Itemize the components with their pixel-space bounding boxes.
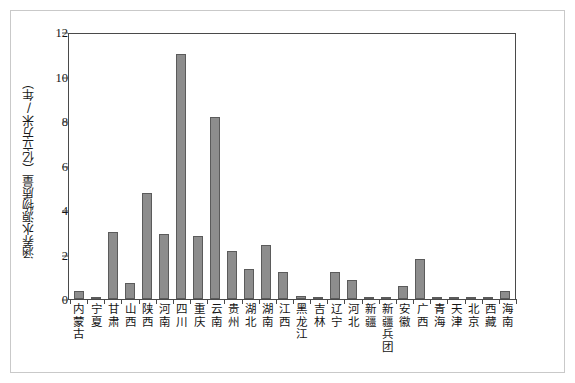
bar — [415, 259, 425, 299]
bar — [449, 297, 459, 299]
bar — [296, 296, 306, 299]
bar-slot — [87, 34, 104, 299]
bar — [108, 232, 118, 299]
x-tick-label: 河北 — [346, 303, 358, 373]
x-axis-labels: 内蒙古宁夏甘肃山西陕西河南四川重庆云南贵州湖北湖南江西黑龙江吉林辽宁河北新疆新疆… — [68, 303, 516, 373]
x-tick-label: 河南 — [158, 303, 170, 373]
x-tick-label: 宁夏 — [89, 303, 101, 373]
bar-slot — [241, 34, 258, 299]
x-label-slot: 新疆 — [361, 303, 378, 373]
bar-slot — [275, 34, 292, 299]
bar-slot — [121, 34, 138, 299]
x-tick-label: 安徽 — [398, 303, 410, 373]
x-label-slot: 甘肃 — [103, 303, 120, 373]
x-label-slot: 海南 — [498, 303, 515, 373]
bar-slot — [224, 34, 241, 299]
bar — [261, 245, 271, 300]
x-label-slot: 广西 — [412, 303, 429, 373]
x-label-slot: 辽宁 — [326, 303, 343, 373]
bar-slot — [172, 34, 189, 299]
y-axis-ticks: 024681012 — [30, 33, 68, 300]
bar-slot — [394, 34, 411, 299]
x-tick-label: 天津 — [449, 303, 461, 373]
chart-figure: 涵养水源物质量（亿立方米/年） 024681012 内蒙古宁夏甘肃山西陕西河南四… — [0, 0, 575, 383]
bar — [398, 286, 408, 299]
bar-series — [69, 34, 515, 299]
x-label-slot: 江西 — [275, 303, 292, 373]
bar — [74, 291, 84, 299]
x-tick-label: 内蒙古 — [72, 303, 84, 373]
bar-slot — [497, 34, 514, 299]
x-tick-label: 海南 — [501, 303, 513, 373]
x-label-slot: 河北 — [344, 303, 361, 373]
bar-slot — [480, 34, 497, 299]
bar — [193, 236, 203, 299]
bar-slot — [463, 34, 480, 299]
bar-slot — [309, 34, 326, 299]
x-label-slot: 安徽 — [395, 303, 412, 373]
bar-slot — [207, 34, 224, 299]
x-tick-label: 青海 — [432, 303, 444, 373]
x-tick-label: 山西 — [123, 303, 135, 373]
x-label-slot: 吉林 — [309, 303, 326, 373]
bar-slot — [446, 34, 463, 299]
bar — [432, 297, 442, 299]
x-label-slot: 重庆 — [189, 303, 206, 373]
bar — [210, 117, 220, 299]
x-label-slot: 湖南 — [258, 303, 275, 373]
bar — [278, 272, 288, 299]
x-label-slot: 天津 — [446, 303, 463, 373]
x-tick-label: 江西 — [278, 303, 290, 373]
bar — [347, 280, 357, 299]
x-tick-label: 重庆 — [192, 303, 204, 373]
x-tick-label: 西藏 — [483, 303, 495, 373]
bar-slot — [343, 34, 360, 299]
bar — [244, 269, 254, 299]
x-label-slot: 北京 — [464, 303, 481, 373]
x-label-slot: 湖北 — [241, 303, 258, 373]
bar-slot — [360, 34, 377, 299]
x-label-slot: 云南 — [206, 303, 223, 373]
bar-slot — [104, 34, 121, 299]
x-tick-label: 黑龙江 — [295, 303, 307, 373]
bar — [483, 297, 493, 299]
x-tick-label: 云南 — [209, 303, 221, 373]
x-tick-label: 贵州 — [226, 303, 238, 373]
x-label-slot: 青海 — [429, 303, 446, 373]
x-label-slot: 河南 — [155, 303, 172, 373]
x-tick-label: 湖南 — [260, 303, 272, 373]
bar — [466, 297, 476, 299]
bar — [176, 54, 186, 299]
x-tick-label: 北京 — [466, 303, 478, 373]
x-label-slot: 山西 — [120, 303, 137, 373]
bar — [142, 193, 152, 299]
bar-slot — [429, 34, 446, 299]
x-tick-label: 甘肃 — [106, 303, 118, 373]
x-label-slot: 陕西 — [138, 303, 155, 373]
bar-slot — [326, 34, 343, 299]
bar-slot — [412, 34, 429, 299]
bar-slot — [258, 34, 275, 299]
bar-slot — [70, 34, 87, 299]
bar — [381, 297, 391, 299]
bar — [91, 297, 101, 299]
x-label-slot: 西藏 — [481, 303, 498, 373]
x-label-slot: 四川 — [172, 303, 189, 373]
x-tick-label: 辽宁 — [329, 303, 341, 373]
x-tick-label: 新疆兵团 — [381, 303, 393, 373]
bar-slot — [155, 34, 172, 299]
x-tick-mark — [516, 299, 517, 304]
bar — [227, 251, 237, 299]
x-label-slot: 宁夏 — [86, 303, 103, 373]
x-label-slot: 黑龙江 — [292, 303, 309, 373]
x-tick-label: 广西 — [415, 303, 427, 373]
x-tick-label: 新疆 — [363, 303, 375, 373]
bar-slot — [138, 34, 155, 299]
bar-slot — [377, 34, 394, 299]
bar — [159, 234, 169, 299]
bar-slot — [292, 34, 309, 299]
bar — [125, 283, 135, 299]
x-tick-label: 湖北 — [243, 303, 255, 373]
x-label-slot: 内蒙古 — [69, 303, 86, 373]
x-tick-label: 吉林 — [312, 303, 324, 373]
